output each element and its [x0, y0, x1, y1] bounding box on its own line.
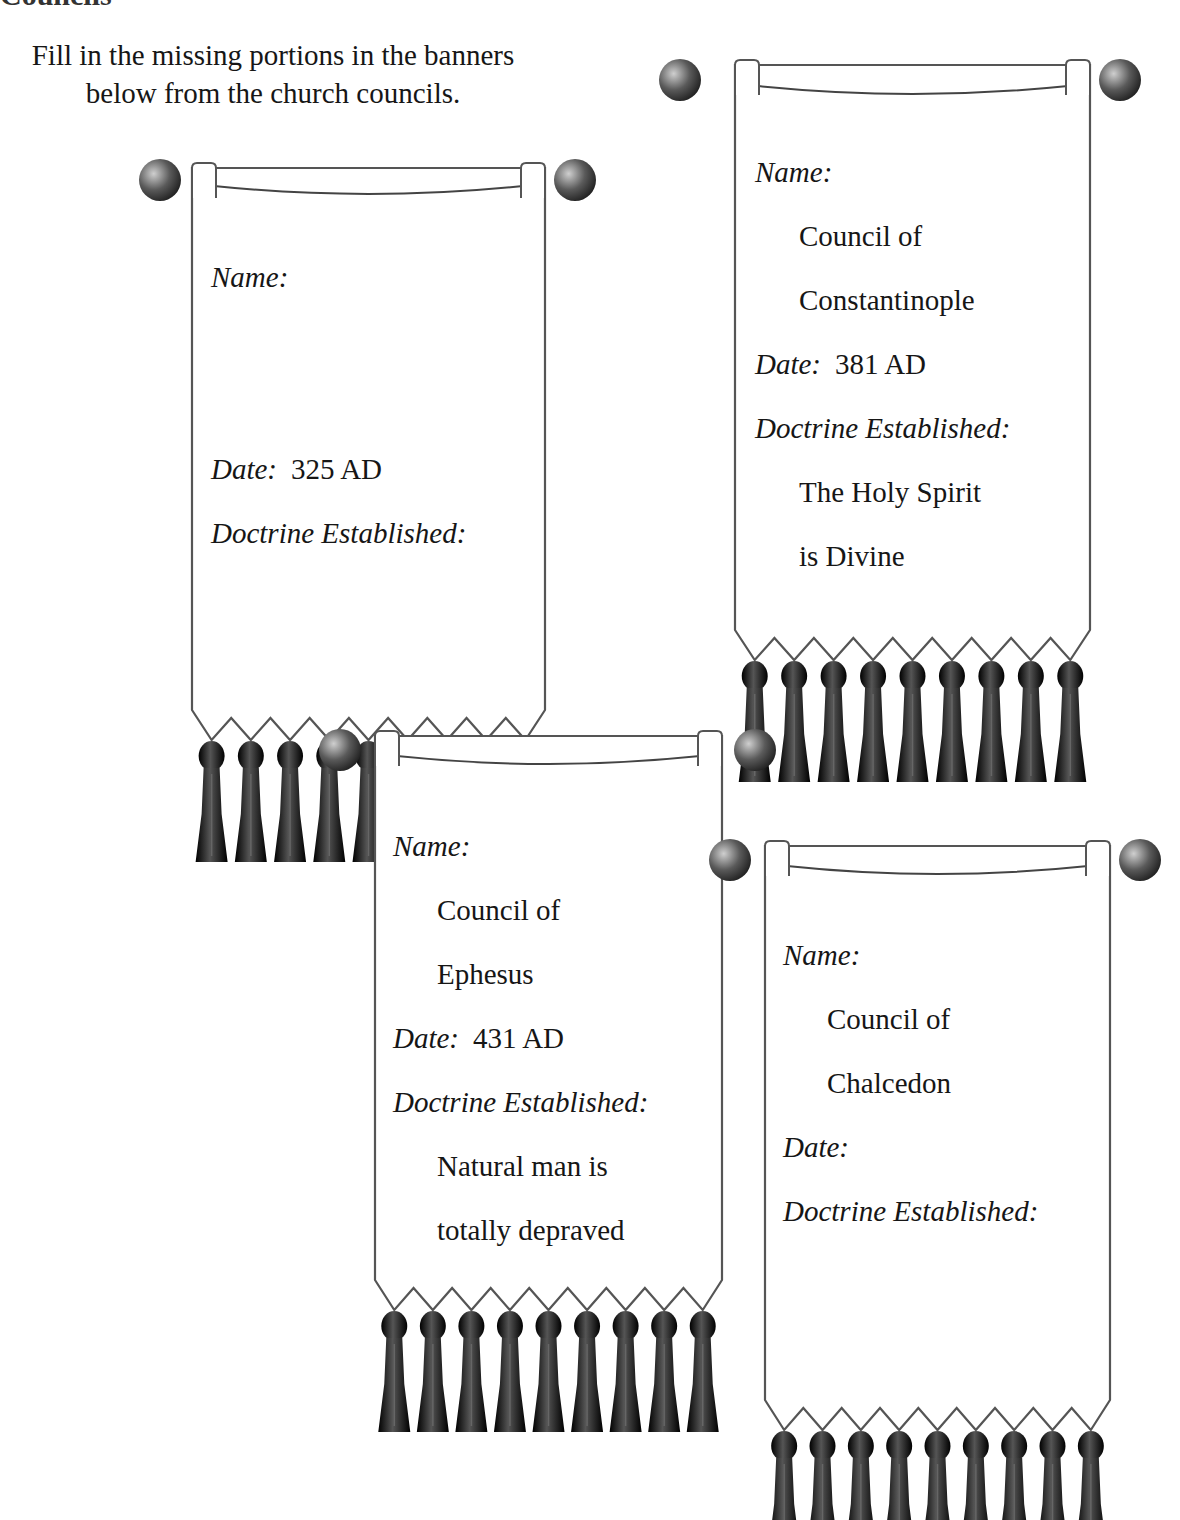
banner-council-constantinople: Name: Council of Constantinople Date:381… [655, 50, 1145, 760]
date-label: Date: [783, 1131, 849, 1163]
name-label: Name: [393, 814, 648, 878]
tassels [768, 1431, 1107, 1520]
doctrine-label: Doctrine Established: [783, 1179, 1038, 1243]
name-line-2: Constantinople [755, 268, 1010, 332]
rod-knob-left [709, 839, 751, 881]
name-line-2-blank[interactable] [211, 373, 466, 437]
doctrine-line-1: The Holy Spirit [755, 460, 1010, 524]
tassels [739, 661, 1087, 782]
rod-knob-left [139, 159, 181, 201]
rod-knob-right [734, 729, 776, 771]
doctrine-line-1: Natural man is [393, 1134, 648, 1198]
doctrine-label: Doctrine Established: [755, 396, 1010, 460]
banner-council-chalcedon: Name: Council of Chalcedon Date: Doctrin… [705, 830, 1180, 1520]
date-row: Date: [783, 1115, 1038, 1179]
rod-knob-left [659, 59, 701, 101]
name-line-1: Council of [783, 987, 1038, 1051]
rod-knob-left [319, 729, 361, 771]
doctrine-label: Doctrine Established: [393, 1070, 648, 1134]
doctrine-label: Doctrine Established: [211, 501, 466, 565]
date-label: Date: [393, 1022, 459, 1054]
date-row: Date:431 AD [393, 1006, 648, 1070]
date-label: Date: [211, 453, 277, 485]
tassels [378, 1311, 718, 1432]
name-label: Name: [211, 245, 466, 309]
date-value: 431 AD [473, 1022, 564, 1054]
date-value: 381 AD [835, 348, 926, 380]
page-heading-cutoff: Councils [0, 0, 112, 12]
date-row: Date:381 AD [755, 332, 1010, 396]
date-row: Date:325 AD [211, 437, 466, 501]
instructions-text: Fill in the missing portions in the bann… [8, 36, 538, 112]
rod-knob-right [1119, 839, 1161, 881]
date-label: Date: [755, 348, 821, 380]
date-value: 325 AD [291, 453, 382, 485]
name-line-2: Chalcedon [783, 1051, 1038, 1115]
doctrine-line-1-blank[interactable] [783, 1243, 1038, 1307]
doctrine-line-2: is Divine [755, 524, 1010, 588]
name-label: Name: [755, 140, 1010, 204]
name-line-2: Ephesus [393, 942, 648, 1006]
doctrine-line-2: totally depraved [393, 1198, 648, 1262]
name-label: Name: [783, 923, 1038, 987]
name-line-1: Council of [393, 878, 648, 942]
doctrine-line-1-blank[interactable] [211, 565, 466, 629]
name-line-1: Council of [755, 204, 1010, 268]
rod-knob-right [554, 159, 596, 201]
name-line-1-blank[interactable] [211, 309, 466, 373]
rod-knob-right [1099, 59, 1141, 101]
